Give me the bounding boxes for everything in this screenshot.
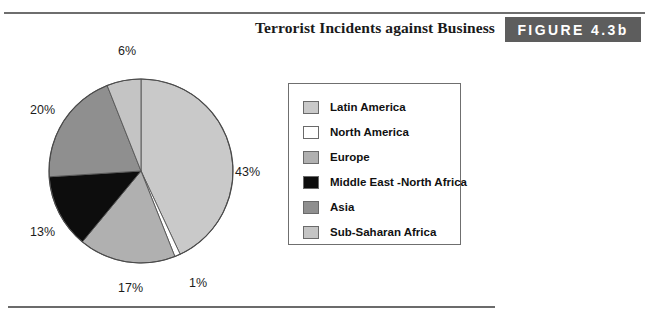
legend-swatch-icon xyxy=(303,176,319,189)
legend-swatch-icon xyxy=(303,201,319,214)
legend-swatch-icon xyxy=(303,126,319,139)
legend-item: Middle East -North Africa xyxy=(303,170,460,194)
pie-label-sub-saharan-africa: 6% xyxy=(118,44,136,58)
legend-item: Asia xyxy=(303,195,460,219)
legend-item-label: Sub-Saharan Africa xyxy=(330,226,436,238)
legend-swatch-icon xyxy=(303,226,319,239)
legend-swatch-icon xyxy=(303,151,319,164)
legend-item-label: Latin America xyxy=(330,101,406,113)
pie-label-latin-america: 43% xyxy=(235,165,260,179)
legend-item-label: Europe xyxy=(330,151,370,163)
pie-label-middle-east-north-africa: 13% xyxy=(30,225,55,239)
legend-item: North America xyxy=(303,120,460,144)
legend-item-label: Asia xyxy=(330,201,354,213)
pie-label-north-america: 1% xyxy=(189,276,207,290)
pie-slice-group xyxy=(49,79,233,263)
legend-item: Sub-Saharan Africa xyxy=(303,220,460,244)
pie-label-europe: 17% xyxy=(118,281,143,295)
pie-label-asia: 20% xyxy=(30,103,55,117)
legend-item-label: North America xyxy=(330,126,409,138)
legend-swatch-icon xyxy=(303,101,319,114)
legend-item: Europe xyxy=(303,145,460,169)
bottom-divider xyxy=(8,306,495,308)
figure-number-badge: FIGURE 4.3b xyxy=(505,17,641,42)
top-divider xyxy=(4,12,645,14)
legend-item: Latin America xyxy=(303,95,460,119)
page-title: Terrorist Incidents against Business xyxy=(180,19,495,37)
legend-item-label: Middle East -North Africa xyxy=(330,176,467,188)
legend: Latin AmericaNorth AmericaEuropeMiddle E… xyxy=(288,83,461,245)
